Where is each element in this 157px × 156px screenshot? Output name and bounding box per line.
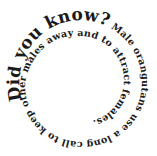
spiral-text: Did you know? Male orangutans use a long… xyxy=(3,4,151,151)
spiral-svg: Did you know? Male orangutans use a long… xyxy=(0,0,157,156)
heading-did-you-know: Did you know? xyxy=(3,4,113,103)
spiral-fact-graphic: Did you know? Male orangutans use a long… xyxy=(0,0,157,156)
